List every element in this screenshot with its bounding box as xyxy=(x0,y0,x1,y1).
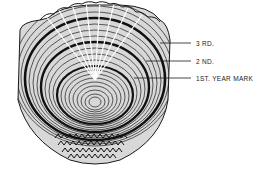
label-3rd-year-mark: 3 RD. xyxy=(196,40,214,47)
fish-scale-illustration xyxy=(0,0,269,171)
fish-scale-diagram: 3 RD. 2 ND. 1ST. YEAR MARK xyxy=(0,0,269,171)
label-2nd-year-mark: 2 ND. xyxy=(196,58,214,65)
label-1st-year-mark: 1ST. YEAR MARK xyxy=(196,75,253,82)
